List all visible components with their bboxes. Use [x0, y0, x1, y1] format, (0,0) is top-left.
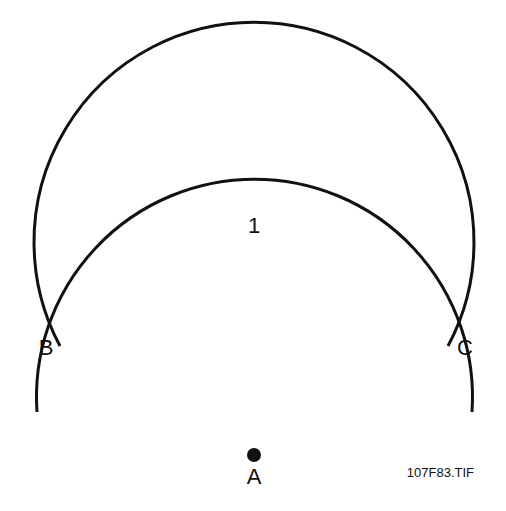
label-a: A: [247, 464, 262, 489]
arc-label-1: 1: [248, 213, 260, 238]
label-c: C: [457, 335, 473, 360]
point-a-dot: [247, 448, 261, 462]
label-b: B: [39, 335, 54, 360]
large-circle-arc: [34, 22, 474, 346]
geometry-diagram: 1 B C A 107F83.TIF: [0, 0, 506, 511]
figure-caption: 107F83.TIF: [407, 465, 474, 480]
